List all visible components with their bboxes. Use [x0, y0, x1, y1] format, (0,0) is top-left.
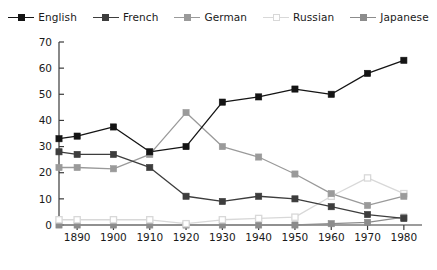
data-point: [219, 198, 225, 204]
data-point: [56, 164, 62, 170]
y-tick-label: 0: [45, 219, 52, 231]
y-tick-label: 50: [39, 88, 52, 100]
data-point: [219, 143, 225, 149]
series-markers-english: [56, 57, 407, 155]
x-tick-label: 1950: [282, 231, 309, 243]
data-point: [219, 99, 225, 105]
x-tick-label: 1900: [100, 231, 127, 243]
data-point: [219, 217, 225, 223]
data-point: [256, 222, 262, 228]
legend-item-french: French: [93, 11, 159, 23]
y-tick-label: 20: [39, 166, 52, 178]
legend-label: English: [38, 11, 77, 23]
x-tick-label: 1890: [64, 231, 91, 243]
data-point: [364, 70, 370, 76]
y-tick-label: 10: [39, 193, 52, 205]
data-point: [256, 215, 262, 221]
x-tick-label: 1920: [173, 231, 200, 243]
data-point: [147, 149, 153, 155]
data-point: [328, 191, 334, 197]
x-tick-label: 1910: [136, 231, 163, 243]
data-point: [110, 124, 116, 130]
legend-line-marker-icon: [174, 12, 200, 23]
data-point: [147, 164, 153, 170]
legend-item-japanese: Japanese: [350, 11, 428, 23]
data-point: [256, 193, 262, 199]
data-point: [147, 217, 153, 223]
chart-legend: EnglishFrenchGermanRussianJapanese: [0, 6, 437, 28]
data-point: [56, 217, 62, 223]
data-point: [292, 196, 298, 202]
y-tick-label: 60: [39, 62, 52, 74]
data-point: [183, 193, 189, 199]
legend-label: French: [123, 11, 159, 23]
line-chart: EnglishFrenchGermanRussianJapanese 01020…: [0, 0, 437, 270]
data-point: [364, 202, 370, 208]
x-tick-label: 1930: [209, 231, 236, 243]
legend-line-marker-icon: [350, 12, 376, 23]
data-point: [292, 171, 298, 177]
data-point: [110, 217, 116, 223]
data-point: [364, 175, 370, 181]
data-point: [256, 154, 262, 160]
legend-label: Russian: [293, 11, 334, 23]
data-point: [74, 217, 80, 223]
series-markers-german: [56, 109, 407, 208]
data-point: [328, 221, 334, 227]
data-point: [292, 222, 298, 228]
data-point: [56, 136, 62, 142]
legend-label: German: [204, 11, 247, 23]
x-tick-label: 1960: [318, 231, 345, 243]
legend-item-english: English: [8, 11, 77, 23]
data-point: [256, 94, 262, 100]
data-point: [183, 143, 189, 149]
legend-label: Japanese: [380, 11, 428, 23]
series-english: [59, 60, 404, 152]
data-point: [328, 204, 334, 210]
data-point: [401, 193, 407, 199]
data-point: [401, 215, 407, 221]
data-point: [364, 211, 370, 217]
data-point: [183, 109, 189, 115]
series-markers-japanese: [56, 214, 407, 228]
data-point: [292, 214, 298, 220]
series-line-english: [59, 60, 404, 152]
data-point: [110, 151, 116, 157]
y-tick-label: 40: [39, 114, 52, 126]
data-point: [292, 86, 298, 92]
y-tick-label: 30: [39, 140, 52, 152]
x-tick-label: 1940: [245, 231, 272, 243]
x-tick-label: 1980: [390, 231, 417, 243]
data-point: [183, 221, 189, 227]
plot-area: 0102030405060701890190019101920193019401…: [33, 38, 428, 247]
legend-line-marker-icon: [8, 12, 34, 23]
legend-item-german: German: [174, 11, 247, 23]
legend-line-marker-icon: [263, 12, 289, 23]
y-tick-label: 70: [39, 38, 52, 48]
data-point: [74, 133, 80, 139]
x-tick-label: 1970: [354, 231, 381, 243]
data-point: [74, 164, 80, 170]
legend-item-russian: Russian: [263, 11, 334, 23]
data-point: [401, 57, 407, 63]
data-point: [328, 91, 334, 97]
plot-svg: 0102030405060701890190019101920193019401…: [33, 38, 428, 247]
data-point: [56, 149, 62, 155]
legend-line-marker-icon: [93, 12, 119, 23]
data-point: [110, 166, 116, 172]
data-point: [364, 219, 370, 225]
data-point: [74, 151, 80, 157]
